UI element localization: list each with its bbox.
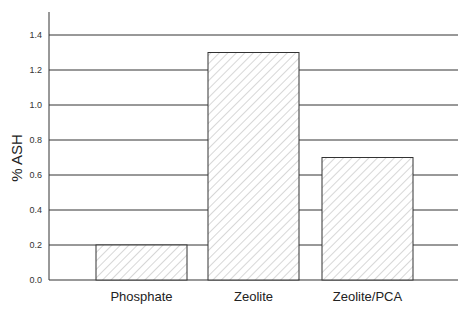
y-tick-label: 0.4: [29, 205, 42, 215]
x-category-label: Zeolite/PCA: [333, 289, 403, 304]
y-tick-label: 1.0: [29, 100, 42, 110]
bar-phosphate: [96, 245, 187, 280]
y-tick-label: 1.2: [29, 65, 42, 75]
bar-zeolite-pca: [322, 158, 413, 281]
y-tick-label: 0.8: [29, 135, 42, 145]
x-axis-categories: PhosphateZeoliteZeolite/PCA: [110, 289, 402, 304]
y-tick-label: 0.2: [29, 240, 42, 250]
bar-chart: 0.00.20.40.60.81.01.21.4 PhosphateZeolit…: [0, 0, 471, 317]
x-category-label: Zeolite: [234, 289, 273, 304]
y-axis-ticks: 0.00.20.40.60.81.01.21.4: [29, 30, 42, 285]
y-tick-label: 0.6: [29, 170, 42, 180]
y-tick-label: 1.4: [29, 30, 42, 40]
x-category-label: Phosphate: [110, 289, 172, 304]
y-tick-label: 0.0: [29, 275, 42, 285]
y-axis-label: % ASH: [8, 134, 25, 182]
bar-zeolite: [208, 53, 299, 281]
bars: [96, 53, 413, 281]
